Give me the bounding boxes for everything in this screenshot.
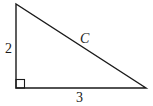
hypotenuse-label: C (80, 31, 90, 46)
right-angle-marker (16, 80, 25, 89)
horizontal-leg-label: 3 (76, 90, 83, 105)
vertical-leg-label: 2 (5, 41, 12, 56)
right-triangle-diagram: 2 3 C (0, 0, 153, 106)
triangle-outline (16, 4, 146, 88)
